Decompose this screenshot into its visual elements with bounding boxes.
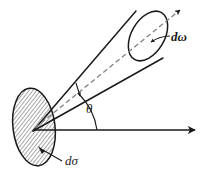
domega-leader-arrow <box>151 36 170 42</box>
theta-label: θ <box>86 102 92 115</box>
cone-axis-dashed-arrow <box>35 10 180 128</box>
scattering-diagram: dω dσ θ <box>0 0 207 181</box>
domega-label: dω <box>171 30 187 43</box>
diagram-canvas <box>0 0 207 181</box>
cone-edge-lower <box>33 58 163 131</box>
cone-edge-upper <box>33 11 136 131</box>
hatched-ellipse <box>8 86 59 169</box>
dsigma-label: dσ <box>65 154 78 167</box>
